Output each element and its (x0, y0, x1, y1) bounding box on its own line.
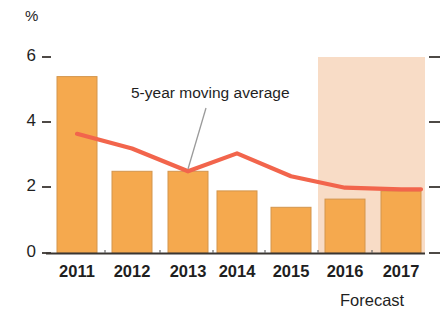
x-tick-label-2014: 2014 (209, 262, 265, 281)
y-tick-label-4: 4 (14, 111, 36, 131)
bar-2014 (217, 191, 257, 253)
forecast-caption: Forecast (340, 291, 404, 310)
chart-container: % 6 4 2 0 2011 2012 2013 2014 2015 2016 … (0, 0, 442, 317)
bar-2011 (57, 77, 97, 253)
bar-2017 (381, 191, 421, 253)
moving-average-annotation: 5-year moving average (131, 84, 290, 102)
x-tick-label-2013: 2013 (160, 262, 216, 281)
x-tick-label-2017: 2017 (373, 262, 429, 281)
x-tick-label-2015: 2015 (263, 262, 319, 281)
y-tick-label-6: 6 (14, 46, 36, 66)
y-axis-ticks-left (42, 57, 51, 253)
annotation-leader-line (188, 108, 206, 169)
y-axis-ticks-right (429, 57, 440, 253)
bar-2012 (112, 171, 152, 253)
y-tick-label-0: 0 (14, 242, 36, 262)
x-tick-label-2011: 2011 (49, 262, 105, 281)
bar-2013 (168, 171, 208, 253)
bar-2015 (271, 207, 311, 253)
y-tick-label-2: 2 (14, 176, 36, 196)
x-tick-label-2012: 2012 (104, 262, 160, 281)
bar-2016 (325, 199, 365, 253)
x-tick-label-2016: 2016 (317, 262, 373, 281)
y-axis-unit-label: % (25, 7, 38, 24)
